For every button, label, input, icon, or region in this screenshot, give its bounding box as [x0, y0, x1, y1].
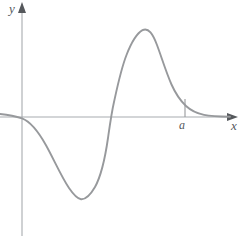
x-axis-label: x [231, 119, 237, 132]
plot-canvas [0, 0, 242, 236]
plot-curve [0, 29, 230, 199]
point-a-label: a [179, 119, 185, 131]
y-axis-label: y [9, 2, 15, 15]
y-axis-arrowhead [18, 2, 26, 13]
figure-container: y x a [0, 0, 242, 236]
